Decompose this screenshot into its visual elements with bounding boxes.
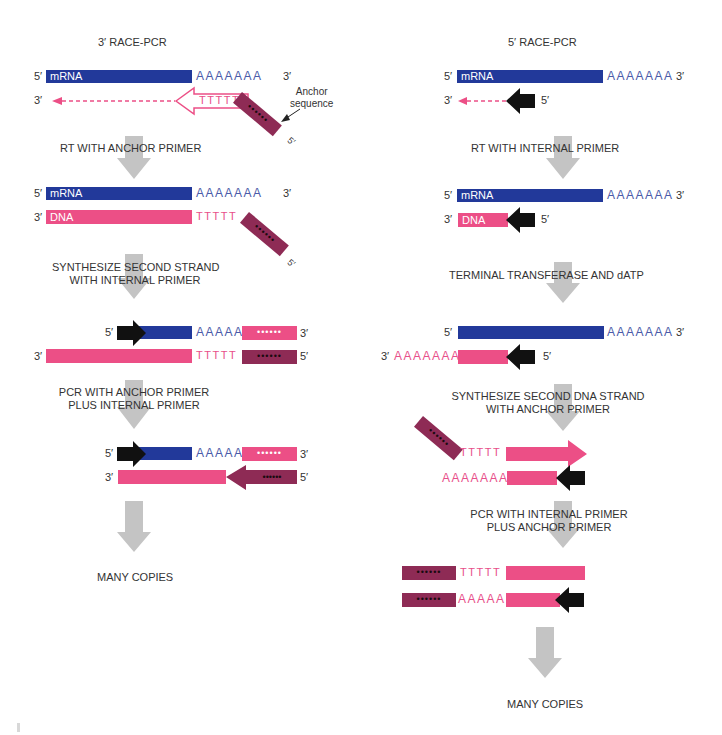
end-label-5prime: 5′ <box>541 213 549 225</box>
second-strand-extension-arrow-icon <box>506 440 588 468</box>
polyA-tail: AAAAAAA <box>607 188 674 202</box>
cdna-strand <box>507 471 557 485</box>
step-label: TERMINAL TRANSFERASE AND dATP <box>449 269 644 282</box>
anchor-sequence: •••••• <box>402 566 456 580</box>
step-label: RT WITH INTERNAL PRIMER <box>471 142 619 155</box>
anchor-sequence: •••••• <box>402 593 456 607</box>
end-label-3prime: 3′ <box>444 213 452 225</box>
end-label-5prime: 5′ <box>541 94 549 106</box>
polyA-tail-added: AAAAAAA <box>394 349 461 363</box>
faint-mark <box>17 723 20 732</box>
internal-primer-arrow-icon <box>506 207 536 233</box>
mrna-strand <box>458 326 604 339</box>
step-label: PCR WITH INTERNAL PRIMER PLUS ANCHOR PRI… <box>466 508 632 534</box>
mrna-strand: mRNA <box>457 189 603 202</box>
process-arrow-icon <box>527 627 563 679</box>
pcr-product-strand <box>506 593 560 607</box>
internal-primer-arrow-icon <box>506 344 536 370</box>
step-label: SYNTHESIZE SECOND DNA STRAND WITH ANCHOR… <box>450 390 646 416</box>
cdna-strand: DNA <box>458 213 508 227</box>
end-label-3prime: 3′ <box>676 189 684 201</box>
internal-primer-arrow-icon <box>555 587 585 613</box>
pcr-product-strand <box>506 566 585 580</box>
internal-primer-arrow-icon <box>556 465 586 491</box>
result-label: MANY COPIES <box>507 698 583 711</box>
cdna-strand <box>458 350 508 364</box>
end-label-5prime: 5′ <box>543 350 551 362</box>
oligo-dT: TTTTT <box>460 566 501 578</box>
polyA-tail-added: AAAAAAA <box>442 471 509 485</box>
rt-extension-dashed-arrow-icon <box>0 0 722 735</box>
oligo-dT: TTTTT <box>460 446 501 458</box>
polyA-tail: AAAAAAA <box>607 325 674 339</box>
end-label-3prime: 3′ <box>676 326 684 338</box>
end-label-5prime: 5′ <box>444 189 452 201</box>
end-label-3prime: 3′ <box>381 350 389 362</box>
end-label-5prime: 5′ <box>444 326 452 338</box>
polyA-tail: AAAAA <box>458 592 506 606</box>
